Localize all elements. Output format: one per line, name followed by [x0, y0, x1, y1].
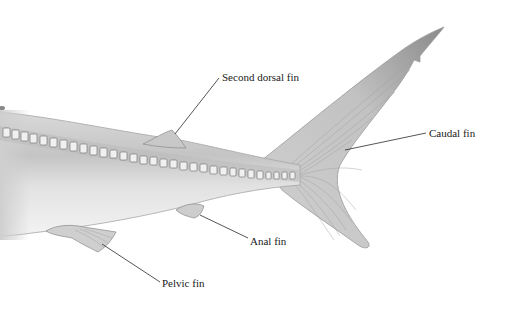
shark-tail-illustration	[0, 0, 510, 311]
label-caudal-fin: Caudal fin	[429, 128, 475, 139]
leader-pelvic-fin	[102, 244, 160, 282]
label-pelvic-fin: Pelvic fin	[162, 278, 204, 289]
label-anal-fin: Anal fin	[250, 236, 286, 247]
leader-second-dorsal-fin	[175, 78, 219, 134]
label-second-dorsal-fin: Second dorsal fin	[222, 72, 299, 83]
caudal-fin-shape	[262, 27, 444, 248]
shark-body	[0, 106, 300, 240]
pelvic-fin-shape	[46, 225, 116, 252]
leader-anal-fin	[200, 215, 248, 238]
